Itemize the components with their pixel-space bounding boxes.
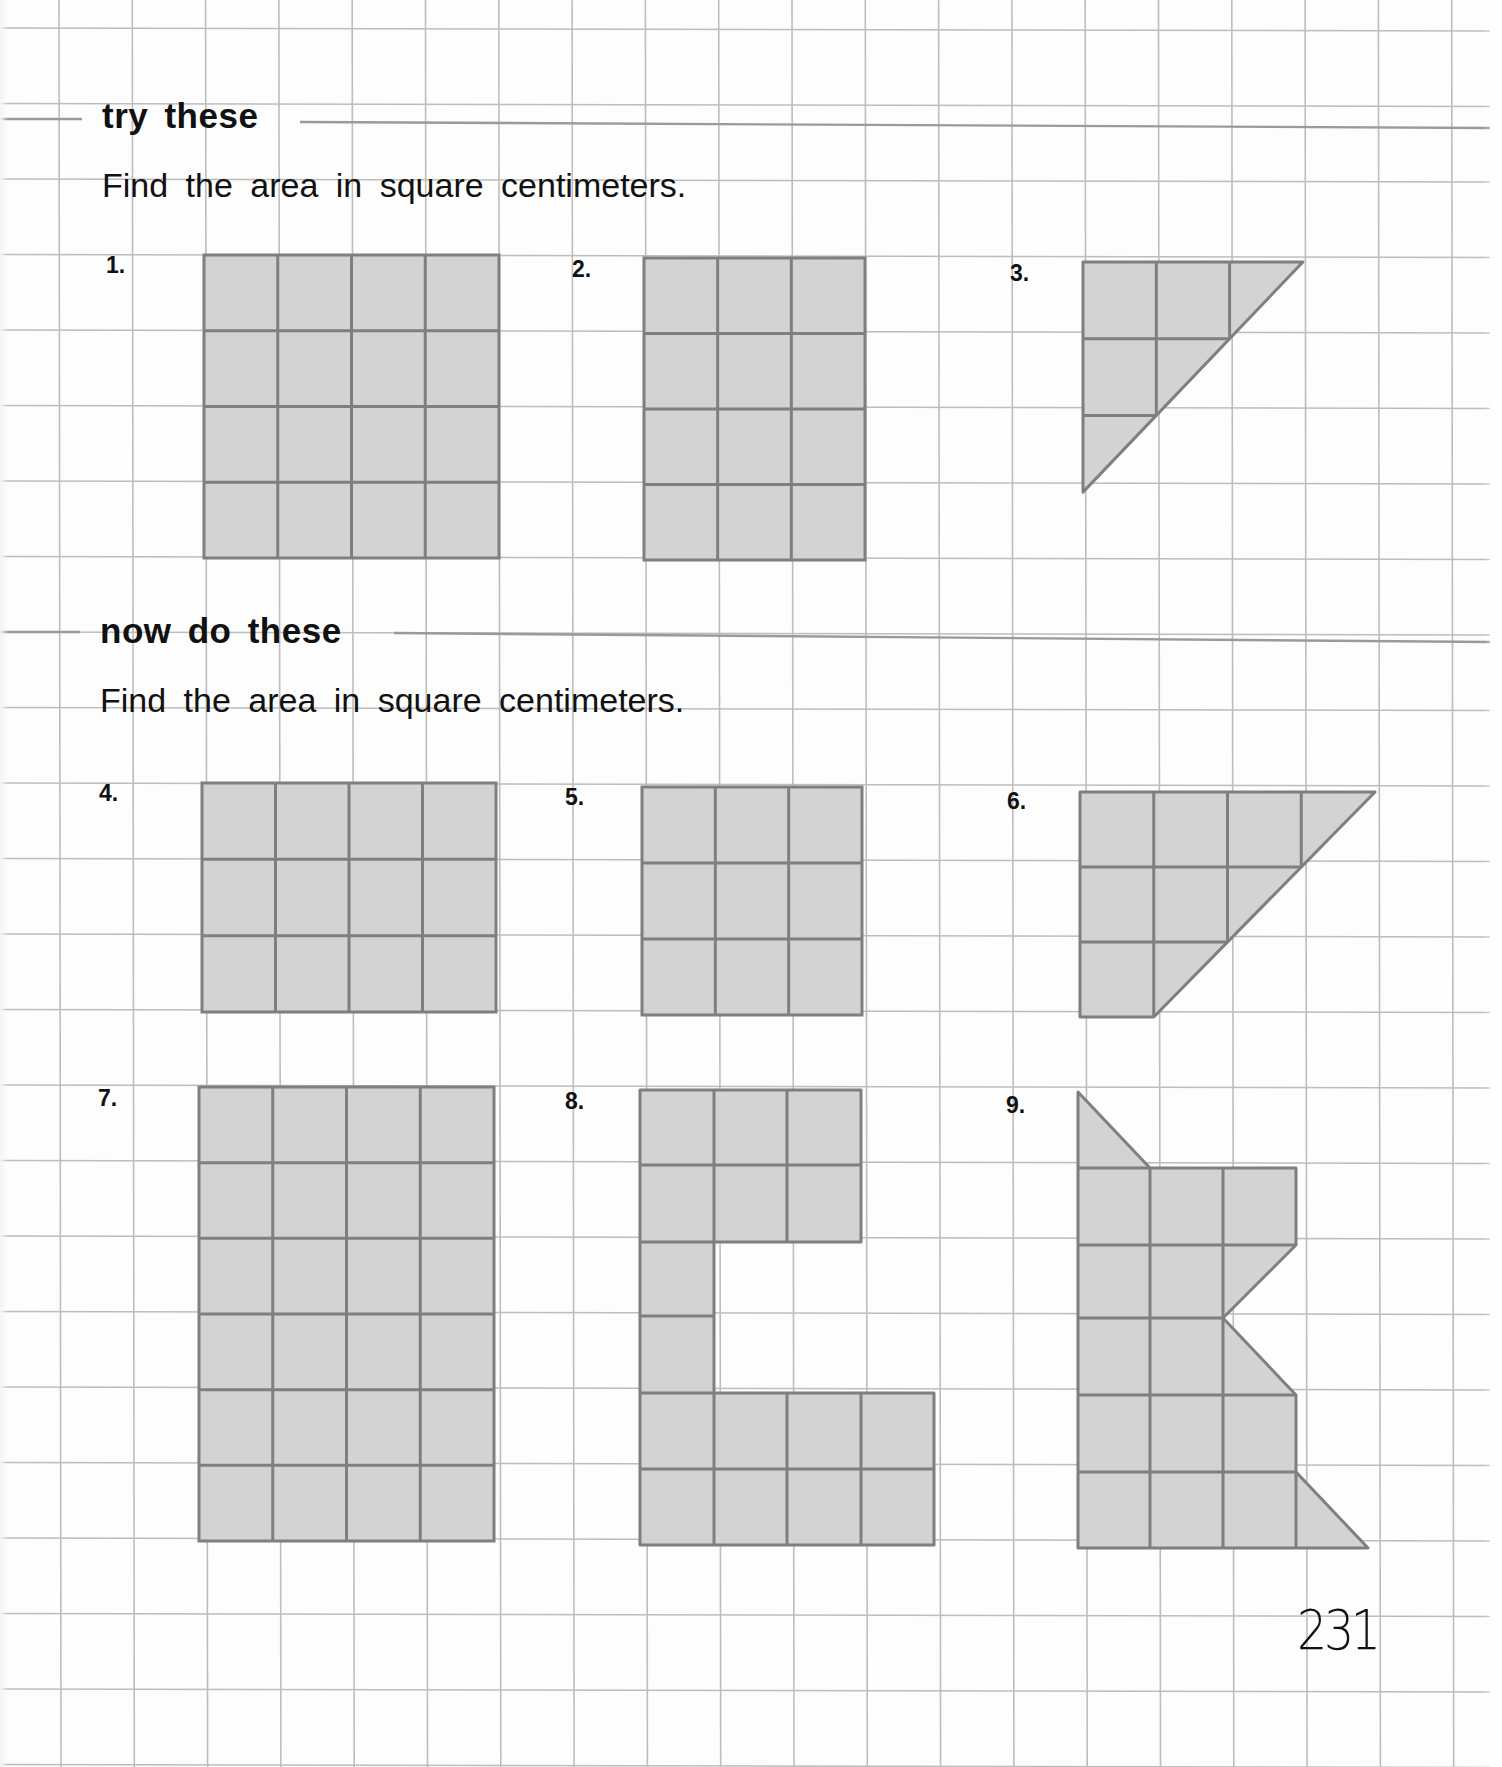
problem-label-7: 7. bbox=[98, 1085, 117, 1112]
instruction-text: Find the area in square centimeters. bbox=[102, 166, 686, 205]
grid-line-horizontal bbox=[0, 28, 1490, 31]
grid-line-vertical bbox=[59, 0, 61, 1767]
problem-label-4: 4. bbox=[99, 780, 118, 807]
problem-label-5: 5. bbox=[565, 784, 584, 811]
problem-label-8: 8. bbox=[565, 1088, 584, 1115]
graph-paper bbox=[0, 0, 1502, 1767]
problem-label-3: 3. bbox=[1010, 260, 1029, 287]
page-edge-shadow bbox=[0, 0, 8, 1767]
textbook-page: try these Find the area in square centim… bbox=[0, 0, 1502, 1767]
grid-line-vertical bbox=[1378, 0, 1380, 1767]
section-rule bbox=[300, 122, 1490, 128]
grid-line-vertical bbox=[1452, 0, 1454, 1767]
problem-label-1: 1. bbox=[106, 252, 125, 279]
instruction-text: Find the area in square centimeters. bbox=[100, 681, 684, 720]
section-title-now-do-these: now do these bbox=[100, 611, 342, 651]
section-title-try-these: try these bbox=[102, 96, 258, 136]
page-number: 231 bbox=[1297, 1597, 1378, 1662]
grid-line-horizontal bbox=[0, 1614, 1490, 1617]
problem-label-6: 6. bbox=[1007, 788, 1026, 815]
figure-5-rectangle bbox=[642, 787, 862, 1015]
problem-label-2: 2. bbox=[572, 256, 591, 283]
grid-line-horizontal bbox=[0, 1689, 1490, 1692]
page-edge-shadow bbox=[1484, 0, 1502, 1767]
figure-3-triangle bbox=[1083, 262, 1303, 492]
grid-line-vertical bbox=[939, 0, 941, 1767]
problem-label-9: 9. bbox=[1006, 1092, 1025, 1119]
grid-line-vertical bbox=[132, 0, 134, 1767]
